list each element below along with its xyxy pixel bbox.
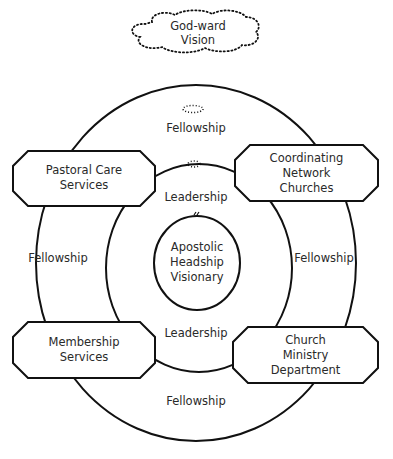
box-label-church: Church Ministry Department (233, 333, 378, 378)
dotted-mark-outer (183, 106, 203, 113)
center-label: Apostolic Headship Visionary (154, 240, 240, 285)
cloud-label: God-ward Vision (150, 19, 246, 47)
box-label-pastoral: Pastoral Care Services (13, 163, 155, 193)
box-label-coordinating: Coordinating Network Churches (235, 151, 378, 196)
diagram-canvas (0, 0, 393, 459)
outer-label-bottom: Fellowship (146, 394, 246, 408)
outer-label-top: Fellowship (146, 121, 246, 135)
inner-label-top: Leadership (146, 190, 246, 204)
box-label-membership: Membership Services (13, 335, 155, 365)
outer-label-right: Fellowship (274, 251, 374, 265)
outer-label-left: Fellowship (8, 251, 108, 265)
tick-mark (194, 212, 199, 215)
inner-label-bottom: Leadership (146, 326, 246, 340)
